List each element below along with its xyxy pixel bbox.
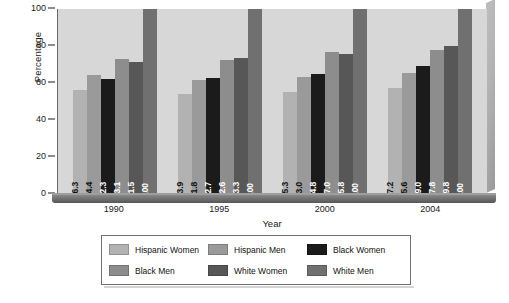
plot-area: 56.364.462.373.171.510053.961.862.772.67… <box>57 9 487 194</box>
bar-group: 56.364.462.373.171.5100 <box>62 9 167 194</box>
bar[interactable]: 56.3 <box>73 90 87 194</box>
bar[interactable]: 100 <box>248 9 262 194</box>
bar-fill <box>248 9 262 194</box>
legend-item[interactable]: White Men <box>307 265 404 276</box>
bar-fill <box>206 78 220 194</box>
legend-item[interactable]: Black Men <box>109 265 206 276</box>
bar-fill <box>234 58 248 194</box>
bar[interactable]: 55.3 <box>283 92 297 194</box>
bar-fill <box>115 59 129 194</box>
bar-fill <box>325 52 339 194</box>
legend-label: Black Men <box>135 266 175 276</box>
bar-fill <box>297 77 311 194</box>
y-tick-label: 60 <box>12 77 46 87</box>
legend-label: Hispanic Women <box>135 245 199 255</box>
legend-item[interactable]: White Women <box>208 265 305 276</box>
bar[interactable]: 100 <box>458 9 472 194</box>
y-tick-label: 20 <box>12 151 46 161</box>
bar-fill <box>339 54 353 194</box>
x-tick-label: 1995 <box>167 204 273 218</box>
x-axis-ticks: 1990199520002004 <box>57 204 487 218</box>
bar[interactable]: 53.9 <box>178 94 192 194</box>
bar[interactable]: 100 <box>143 9 157 194</box>
bar-fill <box>353 9 367 194</box>
bar[interactable]: 73.3 <box>234 58 248 194</box>
y-tick-label: 0 <box>12 188 46 198</box>
bar[interactable]: 79.8 <box>444 46 458 194</box>
bar[interactable]: 64.8 <box>311 74 325 194</box>
bar[interactable]: 64.4 <box>87 75 101 194</box>
bar-group: 55.363.064.877.075.8100 <box>273 9 378 194</box>
y-tick-mark <box>48 8 55 9</box>
legend-color-swatch <box>307 265 327 276</box>
legend-label: White Women <box>234 266 287 276</box>
bar-fill <box>192 80 206 194</box>
bar-fill <box>388 88 402 194</box>
bar-groups: 56.364.462.373.171.510053.961.862.772.67… <box>58 9 487 194</box>
legend-color-swatch <box>307 244 327 255</box>
legend-item[interactable]: Hispanic Women <box>109 244 206 255</box>
x-tick-label: 2000 <box>272 204 378 218</box>
legend-color-swatch <box>208 265 228 276</box>
bar-fill <box>87 75 101 194</box>
bar-fill <box>178 94 192 194</box>
bar-fill <box>220 60 234 194</box>
bar[interactable]: 71.5 <box>129 62 143 194</box>
bar-fill <box>416 66 430 194</box>
bar-fill <box>311 74 325 194</box>
legend-color-swatch <box>109 244 129 255</box>
bar[interactable]: 61.8 <box>192 80 206 194</box>
bar-fill <box>430 50 444 194</box>
legend-label: White Men <box>333 266 374 276</box>
bar-group: 53.961.862.772.673.3100 <box>167 9 272 194</box>
y-tick-label: 40 <box>12 114 46 124</box>
y-tick-mark <box>48 119 55 120</box>
bar-fill <box>129 62 143 194</box>
bar[interactable]: 72.6 <box>220 60 234 194</box>
y-axis-ticks: 020406080100 <box>12 8 56 193</box>
y-tick-mark <box>48 45 55 46</box>
plot-3d-right-face <box>486 0 495 193</box>
bar[interactable]: 62.7 <box>206 78 220 194</box>
bar[interactable]: 100 <box>353 9 367 194</box>
legend-color-swatch <box>208 244 228 255</box>
y-tick-mark <box>48 82 55 83</box>
bar-group: 57.265.669.077.879.8100 <box>378 9 483 194</box>
plot-3d-base <box>52 194 496 203</box>
legend-item[interactable]: Black Women <box>307 244 404 255</box>
legend-color-swatch <box>109 265 129 276</box>
bar[interactable]: 75.8 <box>339 54 353 194</box>
legend-label: Black Women <box>333 245 385 255</box>
bar-fill <box>458 9 472 194</box>
bar-fill <box>402 73 416 194</box>
bar[interactable]: 77.0 <box>325 52 339 194</box>
bar-fill <box>283 92 297 194</box>
bar-fill <box>143 9 157 194</box>
x-tick-label: 1990 <box>61 204 167 218</box>
bar[interactable]: 65.6 <box>402 73 416 194</box>
bar-fill <box>444 46 458 194</box>
bar[interactable]: 77.8 <box>430 50 444 194</box>
x-tick-label: 2004 <box>378 204 484 218</box>
y-tick-label: 80 <box>12 40 46 50</box>
bar-chart-figure: Percentage 020406080100 56.364.462.373.1… <box>0 0 509 303</box>
legend-label: Hispanic Men <box>234 245 286 255</box>
bar[interactable]: 73.1 <box>115 59 129 194</box>
bar[interactable]: 69.0 <box>416 66 430 194</box>
y-tick-mark <box>48 156 55 157</box>
bar[interactable]: 62.3 <box>101 79 115 194</box>
bar[interactable]: 63.0 <box>297 77 311 194</box>
legend-item[interactable]: Hispanic Men <box>208 244 305 255</box>
bar-fill <box>101 79 115 194</box>
bar[interactable]: 57.2 <box>388 88 402 194</box>
chart-legend: Hispanic WomenHispanic MenBlack WomenBla… <box>101 235 411 285</box>
bar-fill <box>73 90 87 194</box>
y-tick-label: 100 <box>12 3 46 13</box>
x-axis-label: Year <box>57 218 487 229</box>
